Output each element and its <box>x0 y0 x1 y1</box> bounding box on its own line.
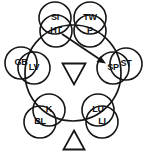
node-label-st: ST <box>120 58 132 68</box>
node-label-ht: HT <box>50 25 62 35</box>
node-label-sp: SP <box>107 62 119 72</box>
meridian-wheel-diagram: SI TW HT P GB LV SP ST K BL LU LI <box>0 0 144 152</box>
ht-to-sp-arrow-line <box>62 34 102 61</box>
node-label-li: LI <box>98 116 106 126</box>
node-label-gb: GB <box>14 57 28 67</box>
yin-triangle-down-icon <box>63 64 86 85</box>
node-label-k: K <box>46 104 53 114</box>
node-label-tw: TW <box>83 12 97 22</box>
node-label-bl: BL <box>34 116 46 126</box>
node-label-si: SI <box>51 12 59 22</box>
diagram-canvas: SI TW HT P GB LV SP ST K BL LU LI <box>0 0 144 152</box>
yang-triangle-up-icon <box>64 131 85 150</box>
node-label-p: P <box>87 25 93 35</box>
node-label-lv: LV <box>29 62 40 72</box>
node-label-lu: LU <box>92 104 104 114</box>
